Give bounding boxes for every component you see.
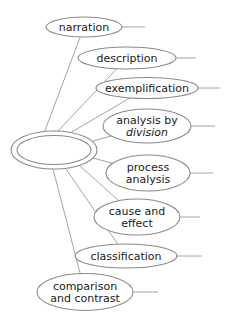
- center-node: [11, 131, 97, 169]
- node-process-analysis: processanalysis: [106, 155, 190, 191]
- connector-process-analysis: [93, 158, 113, 163]
- connector-narration: [44, 37, 80, 133]
- node-label: narration: [59, 21, 109, 34]
- node-narration: narration: [46, 17, 122, 37]
- node-exemplification: exemplification: [96, 78, 198, 99]
- connector-analysis-by-division: [93, 136, 111, 141]
- node-description: description: [78, 47, 176, 69]
- node-label: cause and: [109, 205, 165, 218]
- node-cause-and-effect: cause andeffect: [94, 199, 180, 235]
- node-label: comparison: [53, 280, 117, 293]
- center-inner-ellipse: [17, 136, 91, 165]
- node-label: division: [126, 126, 168, 139]
- node-label: effect: [121, 217, 153, 230]
- node-label: analysis by: [116, 114, 178, 127]
- cluster-diagram: narrationdescriptionexemplificationanaly…: [0, 0, 227, 324]
- node-label: analysis: [126, 173, 171, 186]
- node-label: description: [96, 52, 157, 65]
- node-label: and contrast: [50, 292, 120, 305]
- node-classification: classification: [75, 244, 177, 268]
- node-comparison-and-contrast: comparisonand contrast: [37, 274, 133, 311]
- node-label: classification: [90, 250, 161, 263]
- node-label: exemplification: [105, 82, 189, 95]
- node-label: process: [127, 161, 170, 174]
- node-analysis-by-division: analysis bydivision: [103, 109, 191, 143]
